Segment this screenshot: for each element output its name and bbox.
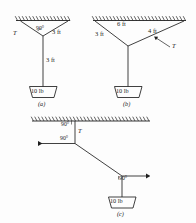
ceiling-hatch-c [31,117,149,121]
panel-caption-b: (b) [123,101,130,107]
angle-label-a: 90° [36,26,44,32]
ceiling-hatch-b [92,16,185,20]
figure-container: T 90° 3 ft 3 ft 10 lb (a) 6 ft 3 ft 4 ft… [0,0,196,223]
angle-label-left-c: 90° [60,136,68,142]
tension-label-b: T [172,43,176,50]
length-label-diagonal-a: 3 ft [52,29,61,36]
right-leg-label-b: 4 ft [148,28,157,35]
tension-label-c: T [78,128,82,135]
weight-label-a: 10 lb [31,88,44,94]
length-label-vertical-a: 3 ft [46,57,55,64]
panel-b-drawing [92,16,186,97]
rope-diagonal-c [75,144,122,177]
tension-label-a: T [13,30,17,37]
span-label-b: 6 ft [117,21,126,28]
weight-label-b: 10 lb [116,88,129,94]
panel-caption-a: (a) [38,101,45,107]
weight-label-c: 10 lb [110,198,123,204]
panel-c-drawing [31,117,150,208]
angle-label-top-c: 90° [61,122,69,128]
ceiling-hatch-a [15,16,70,20]
tension-leader-b [157,39,170,48]
angle-label-lower-c: 90° [119,176,127,182]
left-leg-label-b: 3 ft [95,31,104,38]
panel-caption-c: (c) [117,211,124,217]
